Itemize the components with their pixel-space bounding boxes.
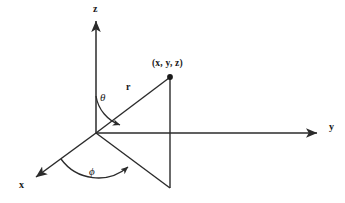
projection-line — [96, 133, 170, 188]
y-axis-label: y — [329, 122, 334, 132]
z-axis-label: z — [93, 4, 97, 14]
phi-label: ϕ — [89, 166, 95, 177]
point-marker — [167, 74, 173, 80]
radius-label: r — [126, 82, 130, 92]
point-coordinates-label: (x, y, z) — [152, 59, 183, 69]
radius-line — [96, 78, 169, 133]
x-axis-line — [36, 133, 96, 177]
theta-label: θ — [100, 92, 105, 103]
x-axis-label: x — [19, 180, 24, 190]
diagram-canvas — [0, 0, 345, 203]
spherical-coordinates-diagram: z y x r θ ϕ (x, y, z) — [0, 0, 345, 203]
